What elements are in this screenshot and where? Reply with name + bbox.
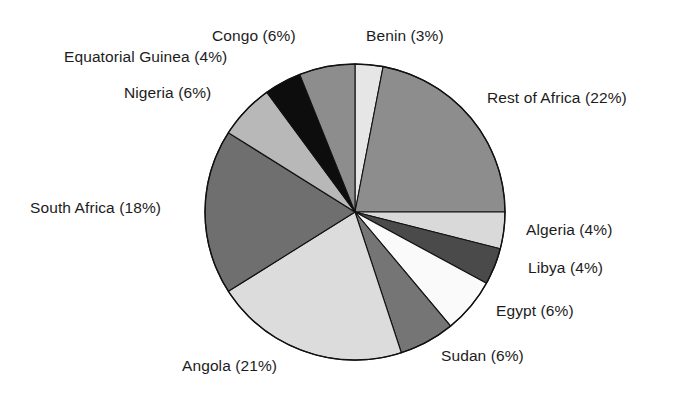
pie-label-equatorial-guinea: Equatorial Guinea (4%) (64, 47, 227, 66)
pie-label-libya: Libya (4%) (528, 258, 603, 277)
pie-label-congo: Congo (6%) (212, 26, 296, 45)
pie-label-sudan: Sudan (6%) (441, 346, 524, 365)
pie-label-benin: Benin (3%) (366, 26, 444, 45)
pie-slice-group (205, 64, 505, 360)
pie-label-south-africa: South Africa (18%) (30, 198, 161, 217)
pie-chart: Congo (6%) Equatorial Guinea (4%) Nigeri… (0, 0, 679, 403)
pie-label-angola: Angola (21%) (182, 356, 277, 375)
pie-label-rest-of-africa: Rest of Africa (22%) (487, 88, 627, 107)
pie-label-egypt: Egypt (6%) (496, 301, 574, 320)
pie-label-algeria: Algeria (4%) (526, 220, 612, 239)
pie-label-nigeria: Nigeria (6%) (124, 83, 211, 102)
